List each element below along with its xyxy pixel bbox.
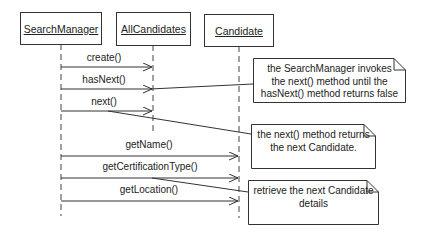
note-text: retrieve the next Candidate details (248, 185, 379, 210)
message-label: create() (87, 52, 121, 63)
object-searchmanager: SearchManager (20, 12, 102, 45)
object-label: SearchManager (24, 23, 99, 35)
note-retrieve: retrieve the next Candidate details (248, 180, 379, 225)
object-candidate: Candidate (204, 14, 274, 47)
note-next: the next() method returns the next Candi… (251, 124, 376, 169)
message-label: next() (91, 96, 117, 107)
object-allcandidates: AllCandidates (116, 12, 191, 46)
object-label: AllCandidates (121, 23, 186, 35)
message-label: getCertificationType() (102, 161, 197, 172)
message-label: getLocation() (120, 184, 178, 195)
note-connector-2 (108, 111, 251, 134)
note-text: the next() method returns the next Candi… (251, 129, 376, 154)
object-label: Candidate (215, 25, 263, 37)
note-connector-1 (150, 84, 253, 89)
note-text: the SearchManager invokes the next() met… (253, 63, 406, 101)
message-label: getName() (125, 139, 172, 150)
sequence-diagram: SearchManager AllCandidates Candidate cr… (0, 0, 423, 237)
message-label: hasNext() (82, 74, 125, 85)
note-hasnext: the SearchManager invokes the next() met… (253, 58, 406, 103)
